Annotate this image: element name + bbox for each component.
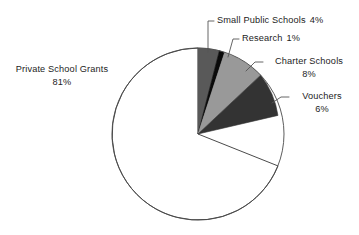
pie-label-small-public-schools-name: Small Public Schools — [217, 15, 306, 25]
pie-label-private-school-grants: Private School Grants 81% — [6, 63, 118, 88]
pie-label-small-public-schools: Small Public Schools4% — [217, 14, 323, 27]
pie-label-private-school-grants-name: Private School Grants — [6, 63, 118, 76]
pie-label-charter-schools: Charter Schools 8% — [266, 55, 352, 80]
pie-chart-graphic — [0, 0, 359, 235]
pie-label-vouchers-percent: 6% — [292, 103, 352, 116]
pie-label-vouchers-name: Vouchers — [292, 90, 352, 103]
pie-label-vouchers: Vouchers 6% — [292, 90, 352, 115]
pie-label-research-name: Research — [242, 33, 283, 43]
pie-label-research-percent: 1% — [287, 33, 301, 43]
leader-line-small-public-schools — [208, 21, 214, 52]
pie-label-small-public-schools-percent: 4% — [310, 15, 324, 25]
pie-label-private-school-grants-percent: 81% — [6, 76, 118, 89]
pie-label-charter-schools-name: Charter Schools — [266, 55, 352, 68]
pie-label-charter-schools-percent: 8% — [266, 68, 352, 81]
pie-chart-figure: Small Public Schools4% Research1% Charte… — [0, 0, 359, 235]
pie-label-research: Research1% — [242, 32, 300, 45]
